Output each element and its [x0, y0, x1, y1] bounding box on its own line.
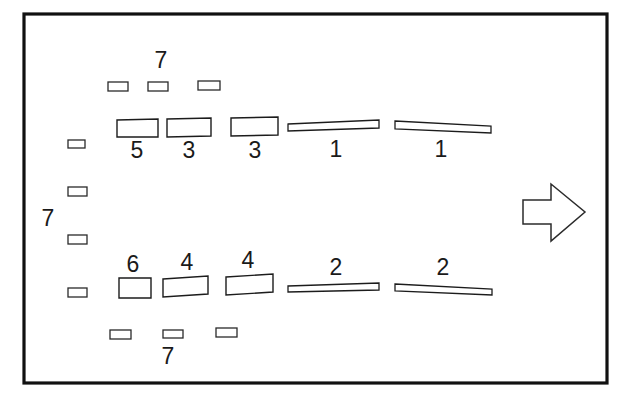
- ref-numeral-2-b: 2: [437, 254, 450, 280]
- chip-top-2: [148, 82, 168, 91]
- chip-left-3: [68, 235, 87, 244]
- block-group-lower: [119, 274, 273, 298]
- bar-2a: [288, 283, 379, 292]
- ref-numeral-4-a: 4: [181, 249, 194, 275]
- ref-numeral-6: 6: [127, 251, 140, 277]
- ref-numeral-3-b: 3: [249, 137, 262, 163]
- figure-canvas: 7 5 3 3 1 1 7 6 4 4 2 2 7: [0, 0, 629, 407]
- ref-numeral-7-left: 7: [42, 205, 55, 231]
- chip-left-1: [68, 140, 85, 148]
- block-3b: [231, 117, 278, 136]
- bar-group-lower: [288, 283, 492, 295]
- drawing-border: [24, 14, 607, 383]
- chip-left-2: [68, 187, 87, 196]
- block-group-upper: [117, 117, 278, 137]
- chip-bottom-3: [216, 328, 237, 337]
- chip-group-bottom: [110, 328, 237, 339]
- ref-numeral-3-a: 3: [183, 137, 196, 163]
- ref-numeral-1-a: 1: [330, 136, 343, 162]
- block-4b: [226, 274, 273, 295]
- ref-numeral-1-b: 1: [435, 136, 448, 162]
- ref-numeral-7-top: 7: [155, 47, 168, 73]
- block-5: [117, 119, 158, 137]
- block-3a: [167, 118, 211, 137]
- bar-group-upper: [288, 120, 491, 133]
- ref-numeral-4-b: 4: [242, 247, 255, 273]
- chip-group-left: [68, 140, 87, 297]
- chip-group-top: [108, 81, 220, 91]
- chip-top-1: [108, 82, 128, 91]
- chip-left-4: [68, 288, 87, 297]
- bar-1b: [395, 121, 491, 133]
- direction-arrow: [523, 184, 585, 241]
- block-4a: [163, 276, 208, 297]
- ref-numeral-5: 5: [131, 137, 144, 163]
- chip-bottom-2: [163, 330, 183, 338]
- chip-top-3: [198, 81, 220, 90]
- patent-figure: 7 5 3 3 1 1 7 6 4 4 2 2 7: [0, 0, 629, 407]
- ref-numeral-7-bottom: 7: [162, 343, 175, 369]
- bar-2b: [395, 284, 492, 295]
- chip-bottom-1: [110, 330, 131, 339]
- ref-numeral-2-a: 2: [330, 254, 343, 280]
- bar-1a: [288, 120, 379, 131]
- block-6: [119, 278, 151, 298]
